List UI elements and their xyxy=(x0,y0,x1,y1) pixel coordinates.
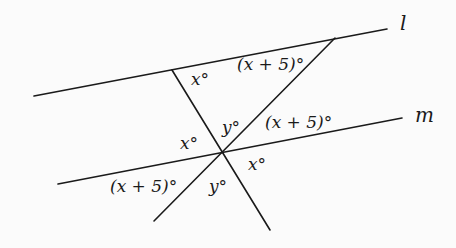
geometry-diagram: l m x° (x + 5)° y° (x + 5)° x° x° (x + 5… xyxy=(0,0,456,248)
angle-label-bottom-y: y° xyxy=(208,176,227,196)
angle-label-right-x-plus-5: (x + 5)° xyxy=(265,112,332,132)
angle-label-right-x-lower: x° xyxy=(248,154,266,174)
line-l-label: l xyxy=(400,11,406,35)
line-m-label: m xyxy=(415,103,434,127)
angle-label-top-x-plus-5: (x + 5)° xyxy=(237,54,304,74)
angle-label-top-x: x° xyxy=(191,69,209,89)
angle-label-center-y-upper: y° xyxy=(221,117,240,137)
angle-label-left-x-plus-5: (x + 5)° xyxy=(110,176,177,196)
angle-label-left-x: x° xyxy=(180,133,198,153)
